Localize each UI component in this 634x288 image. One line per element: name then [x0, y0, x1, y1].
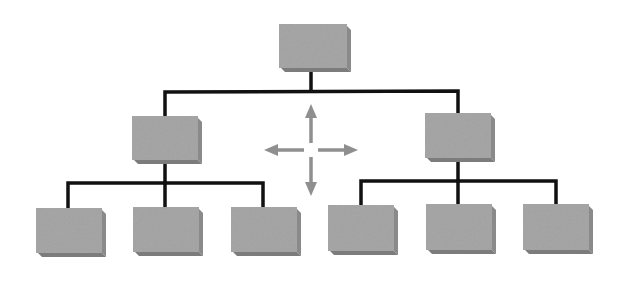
node-box-leaf-2[interactable] [133, 207, 203, 256]
node-box-leaf-5[interactable] [426, 204, 496, 254]
node-box-root[interactable] [279, 24, 351, 72]
node-boxes [36, 24, 593, 257]
node-box-leaf-3[interactable] [231, 207, 301, 256]
node-box-mid-left[interactable] [132, 116, 202, 164]
node-box-mid-right[interactable] [425, 113, 495, 162]
node-box-leaf-4[interactable] [328, 205, 398, 255]
org-chart-diagram [0, 0, 634, 288]
node-box-leaf-6[interactable] [523, 204, 593, 254]
node-box-leaf-1[interactable] [36, 208, 106, 257]
four-way-move-arrows-icon [264, 104, 358, 196]
